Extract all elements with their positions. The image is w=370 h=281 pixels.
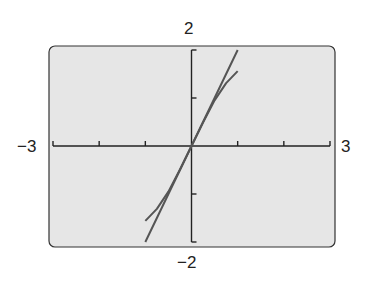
xmin-label: −3: [17, 138, 36, 155]
ymin-label: −2: [177, 254, 196, 271]
graph-window: [0, 0, 370, 281]
ymax-label: 2: [184, 20, 193, 37]
xmax-label: 3: [341, 138, 350, 155]
